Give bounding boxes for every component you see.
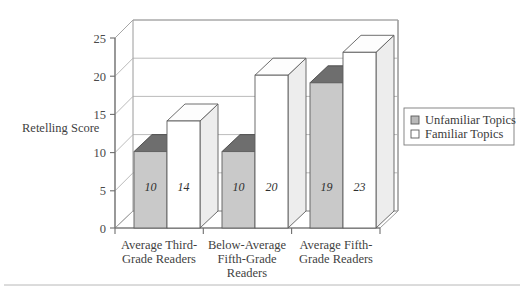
bar-value-unfamiliar: 10 [233, 180, 245, 194]
y-tick-label-5: 5 [100, 184, 106, 198]
y-tick-label-20: 20 [94, 70, 107, 84]
category-label-0-line-0: Average Third- [121, 238, 197, 252]
bar-side [288, 58, 306, 228]
chart-legend[interactable]: Unfamiliar Topics Familiar Topics [404, 108, 516, 145]
bar-front [310, 83, 343, 228]
bar-value-unfamiliar: 10 [145, 180, 157, 194]
category-label-1-line-1: Fifth-Grade [217, 252, 276, 266]
x-axis [115, 228, 380, 234]
bar-front [255, 75, 288, 228]
left-wall [115, 20, 133, 228]
retelling-score-3d-bar-chart: 25 20 15 10 5 0 Retelling Score [0, 0, 527, 293]
bar-side [200, 104, 218, 228]
bar-familiar-g2 [343, 35, 394, 228]
y-tick-label-0: 0 [100, 222, 106, 236]
y-tick-label-15: 15 [94, 108, 107, 122]
legend-item-label-unfamiliar[interactable]: Unfamiliar Topics [425, 113, 516, 127]
category-label-2-line-1: Grade Readers [299, 252, 373, 266]
bar-group-below-average-fifth-grade: 10 20 [222, 58, 306, 228]
unfamiliar-swatch-icon [411, 116, 419, 124]
y-tick-label-25: 25 [94, 32, 107, 46]
category-label-1-line-2: Readers [227, 266, 267, 280]
bar-familiar-g0 [167, 104, 218, 228]
bar-value-unfamiliar: 19 [321, 180, 333, 194]
category-label-1-line-0: Below-Average [208, 238, 287, 252]
category-label-2-line-0: Average Fifth- [299, 238, 372, 252]
y-tick-label-10: 10 [94, 146, 107, 160]
familiar-swatch-icon [411, 130, 419, 138]
y-axis-title: Retelling Score [22, 121, 100, 135]
bar-value-familiar: 23 [354, 180, 366, 194]
category-label-0-line-1: Grade Readers [122, 252, 196, 266]
category-labels: Average Third- Grade Readers Below-Avera… [121, 238, 373, 280]
bar-front [343, 52, 376, 228]
legend-item-label-familiar[interactable]: Familiar Topics [425, 127, 504, 141]
bar-value-familiar: 20 [266, 180, 278, 194]
bar-side [376, 35, 394, 228]
bar-familiar-g1 [255, 58, 306, 228]
bar-group-average-fifth-grade: 19 23 [310, 35, 394, 228]
bar-group-average-third-grade: 10 14 [134, 104, 218, 228]
bar-value-familiar: 14 [178, 180, 190, 194]
gridline-25 [115, 20, 398, 38]
chart-container: 25 20 15 10 5 0 Retelling Score [0, 0, 527, 293]
bar-front [167, 121, 200, 228]
